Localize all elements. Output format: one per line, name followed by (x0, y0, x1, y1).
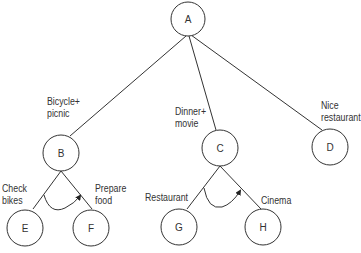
edge-c-h (220, 166, 261, 209)
node-c-label: C (216, 143, 223, 154)
node-e-label: E (22, 223, 29, 234)
edge-a-b (70, 36, 186, 136)
caption-bicycle-picnic: Bicycle+ picnic (47, 96, 80, 120)
edge-a-d (191, 35, 322, 130)
caption-dinner-movie: Dinner+ movie (175, 106, 206, 130)
node-b-label: B (58, 148, 65, 159)
caption-cinema: Cinema (261, 195, 291, 207)
node-f-label: F (88, 223, 94, 234)
edge-c-g (187, 166, 220, 209)
and-arc-b (44, 195, 80, 210)
caption-nice-restaurant: Nice restaurant (321, 100, 361, 124)
caption-check-bikes: Check bikes (2, 183, 27, 207)
node-a-label: A (185, 14, 192, 25)
and-arc-c (204, 188, 240, 207)
node-g-label: G (175, 222, 183, 233)
caption-prepare-food: Prepare food (95, 183, 126, 207)
edge-b-f (61, 171, 92, 209)
node-d-label: D (326, 142, 333, 153)
caption-restaurant: Restaurant (145, 192, 188, 204)
node-h-label: H (259, 222, 266, 233)
